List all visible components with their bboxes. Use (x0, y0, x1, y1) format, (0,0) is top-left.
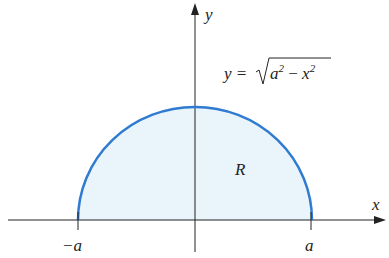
x-axis-arrow (374, 216, 386, 224)
semicircle-diagram: y x y = a2 − x2 R −a a (0, 0, 389, 258)
region-label: R (235, 161, 245, 178)
equation-lhs: y = (224, 65, 247, 82)
tick-label-pos-a: a (305, 237, 314, 254)
diagram-graphics (0, 0, 389, 258)
y-axis-label: y (205, 6, 213, 23)
x-axis-label: x (372, 196, 380, 213)
equation-radicand: a2 − x2 (270, 63, 315, 82)
y-axis-arrow (191, 3, 199, 15)
tick-label-neg-a: −a (62, 237, 82, 254)
